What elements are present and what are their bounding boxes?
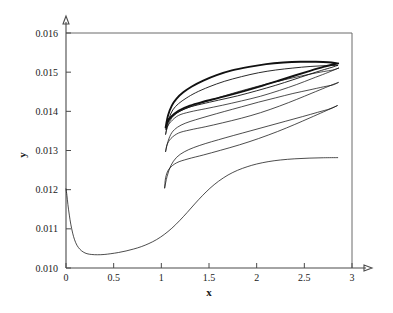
y-tick-label: 0.014 (36, 106, 59, 117)
x-tick-label: 1 (159, 272, 164, 283)
y-tick-label: 0.013 (36, 145, 59, 156)
x-tick-label: 0 (64, 272, 69, 283)
x-tick-label: 0.5 (107, 272, 120, 283)
y-tick-label: 0.011 (36, 223, 58, 234)
plot-frame (66, 33, 352, 268)
y-tick-label: 0.015 (36, 67, 59, 78)
y-tick-label: 0.016 (36, 28, 59, 39)
x-axis-title: x (206, 286, 212, 298)
y-tick-label-group: 0.0100.0110.0120.0130.0140.0150.016 (36, 28, 59, 274)
curve-lower-branch (66, 158, 338, 255)
data-curves (66, 62, 339, 255)
x-tick-label: 3 (350, 272, 355, 283)
y-tick-label: 0.012 (36, 184, 59, 195)
x-tick-label: 2 (254, 272, 259, 283)
y-tick-label: 0.010 (36, 263, 59, 274)
x-tick-label-group: 00.511.522.53 (64, 272, 355, 283)
x-tick-label: 2.5 (298, 272, 311, 283)
curve-loop-1-outer-low (165, 106, 338, 188)
y-axis-title: y (16, 152, 28, 158)
chart-figure: 0.0100.0110.0120.0130.0140.0150.016 y 00… (0, 0, 393, 313)
y-tick-group (66, 33, 71, 268)
curve-loop-3-upper (166, 68, 339, 134)
curve-loop-5-top-thin-inner (166, 65, 338, 129)
y-axis: 0.0100.0110.0120.0130.0140.0150.016 y (16, 16, 71, 274)
plot-canvas: 0.0100.0110.0120.0130.0140.0150.016 y 00… (0, 0, 393, 313)
x-tick-label: 1.5 (203, 272, 216, 283)
x-axis: 00.511.522.53 x (64, 263, 373, 298)
x-tick-group (66, 263, 352, 268)
